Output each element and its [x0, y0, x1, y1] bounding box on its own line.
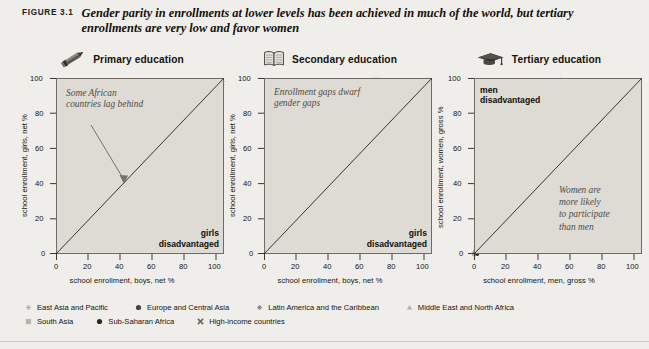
x-axis-label-tertiary: school enrollment, men, gross %: [432, 276, 646, 285]
pencil-icon: [60, 49, 86, 69]
panel-header-primary: Primary education: [16, 46, 228, 72]
plot-area-tertiary: men disadvantaged Women are more likely …: [474, 78, 642, 254]
y-axis-label-primary: school enrollment, girls, net %: [18, 78, 30, 254]
legend-row-2: South AsiaSub-Saharan AfricaHigh-income …: [24, 317, 634, 326]
x-axis-label-primary: school enrollment, boys, net %: [16, 276, 228, 285]
square-marker: [24, 317, 33, 326]
panel-title-primary: Primary education: [93, 54, 184, 65]
legend-item[interactable]: Latin America and the Caribbean: [255, 303, 379, 312]
y-ticks-secondary: [258, 78, 265, 254]
legend-item-label: South Asia: [37, 317, 73, 326]
x-ticks-secondary: [264, 254, 432, 261]
y-ticks-primary: [50, 78, 57, 254]
panel-primary-education: Primary education school enrollment, gir…: [16, 46, 228, 298]
legend-item[interactable]: Sub-Saharan Africa: [95, 317, 174, 326]
x-ticks-primary: [56, 254, 224, 261]
cross-marker: [196, 317, 205, 326]
legend-item[interactable]: High-income countries: [196, 317, 285, 326]
legend-item[interactable]: Europe and Central Asia: [134, 303, 229, 312]
figure-number: FIGURE 3.1: [22, 6, 74, 17]
plot-primary: school enrollment, girls, net % school e…: [16, 72, 228, 298]
legend: East Asia and PacificEurope and Central …: [24, 303, 634, 326]
filled-circle-marker: [95, 317, 104, 326]
plus-marker: [24, 303, 33, 312]
annotation-tertiary: Women are more likely to participate tha…: [559, 184, 610, 233]
legend-item[interactable]: South Asia: [24, 317, 73, 326]
y-axis-label-secondary: school enrollment, girls, net %: [226, 78, 238, 254]
corner-label-tertiary: men disadvantaged: [480, 85, 540, 106]
legend-item-label: High-income countries: [209, 317, 285, 326]
y-axis-label-tertiary: school enrollment, women, gross %: [434, 72, 446, 262]
corner-label-primary: girls disadvantaged: [159, 228, 219, 249]
plot-secondary: school enrollment, girls, net % school e…: [224, 72, 436, 298]
y-ticks-tertiary: [468, 78, 475, 254]
legend-item-label: Latin America and the Caribbean: [268, 303, 379, 312]
legend-row-1: East Asia and PacificEurope and Central …: [24, 303, 634, 312]
plot-tertiary: school enrollment, women, gross % school…: [432, 72, 646, 298]
corner-label-secondary: girls disadvantaged: [367, 228, 427, 249]
panel-secondary-education: Secondary education school enrollment, g…: [224, 46, 436, 298]
diamond-marker: [255, 303, 264, 312]
legend-item-label: Europe and Central Asia: [147, 303, 229, 312]
plot-area-secondary: Enrollment gaps dwarf gender gaps girls …: [264, 78, 432, 254]
open-book-icon: [263, 49, 285, 69]
triangle-marker: [405, 303, 414, 312]
figure-page: FIGURE 3.1 Gender parity in enrollments …: [0, 0, 649, 349]
footer-divider: [0, 341, 649, 342]
annotation-primary: Some African countries lag behind: [66, 88, 143, 111]
legend-item-label: Middle East and North Africa: [418, 303, 514, 312]
figure-title: Gender parity in enrollments at lower le…: [82, 6, 634, 36]
panels-row: Primary education school enrollment, gir…: [0, 46, 649, 298]
panel-title-tertiary: Tertiary education: [512, 54, 601, 65]
annotation-arrow-primary: [88, 122, 132, 190]
legend-item-label: East Asia and Pacific: [37, 303, 108, 312]
panel-header-tertiary: Tertiary education: [432, 46, 646, 72]
legend-item[interactable]: East Asia and Pacific: [24, 303, 108, 312]
x-axis-label-secondary: school enrollment, boys, net %: [224, 276, 436, 285]
panel-header-secondary: Secondary education: [224, 46, 436, 72]
panel-title-secondary: Secondary education: [292, 54, 397, 65]
panel-tertiary-education: Tertiary education school enrollment, wo…: [432, 46, 646, 298]
plot-area-primary: Some African countries lag behind girls …: [56, 78, 224, 254]
x-ticks-tertiary: [474, 254, 642, 261]
graduation-cap-icon: [477, 49, 505, 69]
figure-caption: FIGURE 3.1 Gender parity in enrollments …: [22, 6, 634, 36]
annotation-secondary: Enrollment gaps dwarf gender gaps: [274, 87, 360, 110]
filled-circle-marker: [134, 303, 143, 312]
legend-item-label: Sub-Saharan Africa: [108, 317, 174, 326]
legend-item[interactable]: Middle East and North Africa: [405, 303, 514, 312]
